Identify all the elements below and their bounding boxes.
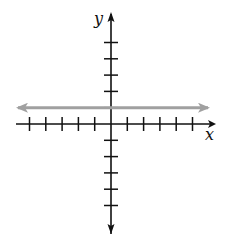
x-axis-label: x: [205, 125, 214, 144]
y-axis: [108, 12, 115, 234]
y-axis-label: y: [93, 9, 104, 28]
coordinate-plane: x y: [0, 0, 225, 242]
